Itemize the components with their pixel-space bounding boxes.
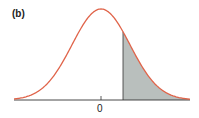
normal-curve-chart (0, 0, 199, 118)
zero-tick-label: 0 (97, 103, 103, 114)
shaded-tail-area (123, 32, 190, 100)
density-curve (14, 9, 190, 99)
